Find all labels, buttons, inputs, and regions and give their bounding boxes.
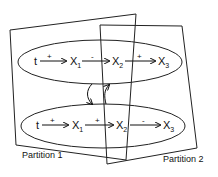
node-x1: X1 [72, 119, 83, 133]
node-t: t [36, 119, 39, 131]
edge-sign: + [137, 52, 142, 61]
edge-sign: - [142, 116, 145, 125]
edge-sign: + [50, 116, 55, 125]
partition-2-plane [100, 25, 197, 164]
partition-1-label: Partition 1 [22, 150, 63, 160]
node-x3: X3 [163, 119, 174, 133]
node-x2: X2 [116, 119, 127, 133]
edge-sign: + [95, 116, 100, 125]
edge-sign: - [91, 52, 94, 61]
partition-2-label: Partition 2 [163, 154, 204, 164]
node-x3: X3 [158, 55, 169, 69]
node-x2: X2 [112, 55, 123, 69]
lower-loop-ellipse [21, 104, 185, 148]
coupling-arrow-down [88, 84, 93, 104]
partition-1-plane [10, 14, 136, 160]
edge-sign: + [47, 52, 52, 61]
coupling-arrow-up [105, 85, 109, 104]
node-x1: X1 [70, 55, 81, 69]
node-t: t [34, 55, 37, 67]
